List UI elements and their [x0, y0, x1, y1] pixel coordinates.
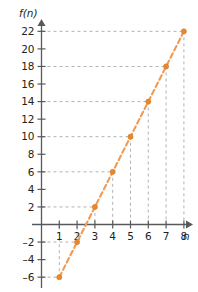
- data-point-marker: [146, 99, 151, 104]
- y-tick-label: 18: [21, 60, 34, 72]
- data-point-marker: [57, 275, 62, 280]
- y-tick-label: 16: [21, 78, 35, 90]
- tick-labels-group: –6–4–224681012141618202212345678: [21, 25, 187, 283]
- y-tick-label: 20: [21, 43, 34, 55]
- x-tick-label: 6: [145, 230, 152, 242]
- chart-container: –6–4–224681012141618202212345678 f(n) n: [0, 0, 198, 292]
- y-tick-label: –2: [23, 236, 35, 248]
- data-point-marker: [110, 169, 115, 174]
- function-graph: –6–4–224681012141618202212345678 f(n) n: [0, 0, 198, 292]
- data-point-marker: [75, 239, 80, 244]
- y-tick-label: –6: [23, 271, 35, 283]
- y-axis-label: f(n): [19, 7, 38, 19]
- data-point-marker: [181, 29, 186, 34]
- x-axis-arrow: [186, 221, 193, 229]
- x-tick-label: 3: [92, 230, 99, 242]
- y-tick-label: 14: [21, 95, 35, 107]
- y-axis-arrow: [38, 19, 46, 26]
- data-point-marker: [164, 64, 169, 69]
- y-tick-label: 12: [21, 113, 34, 125]
- y-tick-label: –4: [23, 253, 35, 265]
- data-point-marker: [92, 204, 97, 209]
- x-axis-label: n: [183, 230, 190, 242]
- y-tick-label: 8: [28, 148, 35, 160]
- y-tick-label: 6: [28, 166, 35, 178]
- x-tick-label: 4: [109, 230, 116, 242]
- y-tick-label: 4: [28, 183, 35, 195]
- x-tick-label: 1: [56, 230, 63, 242]
- y-tick-label: 2: [28, 201, 35, 213]
- x-tick-label: 7: [163, 230, 170, 242]
- data-point-marker: [128, 134, 133, 139]
- axes-group: [32, 19, 193, 288]
- y-tick-label: 22: [21, 25, 34, 37]
- x-tick-label: 5: [127, 230, 134, 242]
- y-tick-label: 10: [21, 130, 34, 142]
